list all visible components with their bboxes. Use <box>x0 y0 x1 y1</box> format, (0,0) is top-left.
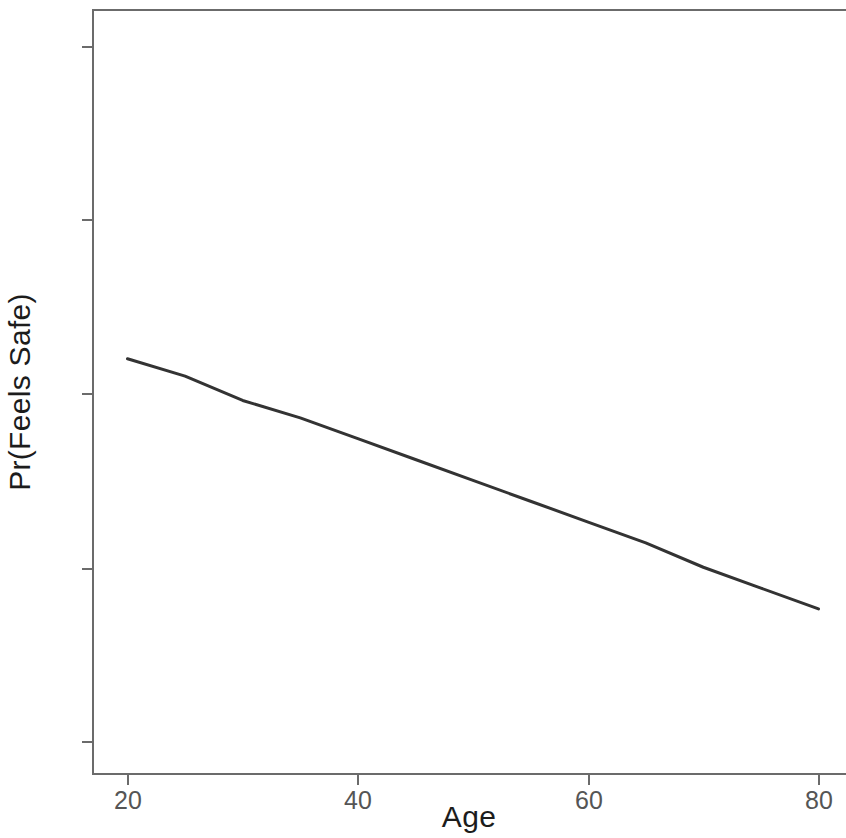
x-tick-mark-40 <box>357 775 359 785</box>
plot-panel <box>92 9 846 775</box>
x-tick-mark-80 <box>818 775 820 785</box>
y-tick-mark-0.75 <box>82 568 92 570</box>
x-axis-title: Age <box>92 802 846 832</box>
x-tick-mark-20 <box>127 775 129 785</box>
y-tick-mark-0.80 <box>82 393 92 395</box>
y-axis-title-text: Pr(Feels Safe) <box>3 293 37 491</box>
y-axis-title: Pr(Feels Safe) <box>0 0 40 784</box>
chart-figure: 0.90 0.85 0.80 0.75 0.70 20 40 60 80 Pr(… <box>0 0 846 838</box>
y-tick-mark-0.70 <box>82 741 92 743</box>
y-tick-mark-0.90 <box>82 46 92 48</box>
x-tick-mark-60 <box>588 775 590 785</box>
y-tick-mark-0.85 <box>82 219 92 221</box>
